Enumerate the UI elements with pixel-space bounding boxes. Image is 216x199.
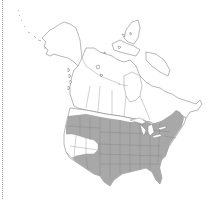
ellesmere-island: [124, 20, 140, 44]
north-america-map-svg: [0, 0, 216, 199]
aleutian-islands: [18, 10, 46, 48]
baffin-island: [146, 52, 170, 76]
range-map: Range: [0, 0, 216, 199]
arctic-islands: [112, 40, 140, 56]
